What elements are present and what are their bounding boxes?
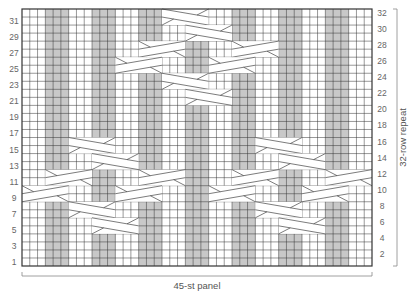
cable-cross bbox=[209, 186, 256, 202]
cable-cross bbox=[232, 170, 279, 186]
row-number: 22 bbox=[377, 88, 387, 98]
cable-cross bbox=[69, 138, 116, 154]
panel-width-label: 45-st panel bbox=[173, 280, 220, 291]
row-number: 4 bbox=[380, 233, 385, 243]
knitting-chart: 135791113151719212325272931 246810121416… bbox=[0, 0, 411, 301]
cable-cross bbox=[185, 89, 232, 105]
row-number: 16 bbox=[377, 137, 387, 147]
cable-cross bbox=[115, 57, 162, 73]
row-number: 19 bbox=[9, 112, 19, 122]
row-number: 13 bbox=[9, 161, 19, 171]
row-number: 7 bbox=[12, 209, 17, 219]
row-number: 27 bbox=[9, 48, 19, 58]
row-number: 10 bbox=[377, 185, 387, 195]
row-number: 15 bbox=[9, 145, 19, 155]
row-number: 14 bbox=[377, 153, 387, 163]
row-number: 5 bbox=[12, 225, 17, 235]
row-number: 6 bbox=[380, 217, 385, 227]
cable-cross bbox=[115, 186, 162, 202]
row-number: 8 bbox=[380, 201, 385, 211]
row-number: 30 bbox=[377, 24, 387, 34]
cable-cross bbox=[92, 154, 139, 170]
row-number: 9 bbox=[12, 193, 17, 203]
cable-cross bbox=[325, 170, 372, 186]
cable-cross bbox=[45, 170, 92, 186]
row-number: 1 bbox=[12, 257, 17, 267]
cable-cross bbox=[302, 186, 349, 202]
cable-cross bbox=[162, 9, 209, 25]
cable-cross bbox=[69, 202, 116, 218]
cable-cross bbox=[139, 41, 186, 57]
row-number: 17 bbox=[9, 128, 19, 138]
cable-cross bbox=[162, 73, 209, 89]
row-number: 2 bbox=[380, 249, 385, 259]
row-number: 3 bbox=[12, 241, 17, 251]
repeat-bracket: 32-row repeat bbox=[393, 9, 408, 266]
row-number: 23 bbox=[9, 80, 19, 90]
cable-cross bbox=[92, 218, 139, 234]
cable-cross bbox=[232, 41, 279, 57]
row-number: 11 bbox=[10, 177, 19, 187]
row-number: 26 bbox=[377, 56, 387, 66]
row-number: 28 bbox=[377, 40, 387, 50]
cable-cross bbox=[185, 25, 232, 41]
cable-cross bbox=[255, 202, 302, 218]
row-number: 12 bbox=[377, 169, 387, 179]
row-number: 24 bbox=[377, 72, 387, 82]
row-numbers-right: 2468101214161820222426283032 bbox=[377, 8, 387, 259]
row-number: 18 bbox=[377, 120, 387, 130]
row-number: 21 bbox=[9, 96, 19, 106]
row-number: 29 bbox=[9, 32, 19, 42]
row-numbers-left: 135791113151719212325272931 bbox=[9, 16, 19, 267]
cable-cross bbox=[279, 218, 326, 234]
cable-cross bbox=[22, 186, 69, 202]
cable-cross bbox=[255, 138, 302, 154]
row-number: 31 bbox=[9, 16, 19, 26]
row-number: 25 bbox=[9, 64, 19, 74]
cable-cross bbox=[139, 170, 186, 186]
row-number: 32 bbox=[377, 8, 387, 18]
cable-cross bbox=[279, 154, 326, 170]
panel-bracket: 45-st panel bbox=[22, 272, 372, 291]
row-number: 20 bbox=[377, 104, 387, 114]
cable-cross bbox=[209, 57, 256, 73]
row-repeat-label: 32-row repeat bbox=[397, 108, 408, 167]
